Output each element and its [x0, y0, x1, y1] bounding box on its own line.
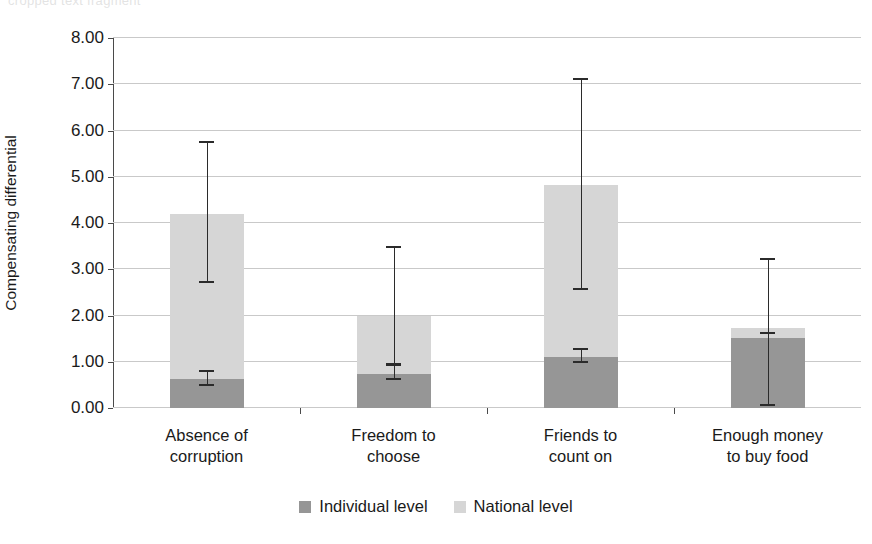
y-tick-mark — [108, 223, 113, 224]
category-label-line: count on — [487, 446, 674, 467]
chart-container: cropped text fragment Compensating diffe… — [0, 0, 872, 544]
y-axis-line — [113, 38, 114, 408]
category-label-line: to buy food — [674, 446, 861, 467]
error-bar-individual-cap-upper — [573, 348, 588, 350]
category-label-line: Friends to — [487, 425, 674, 446]
error-bar-individual-cap-upper — [760, 332, 775, 334]
y-tick-label: 2.00 — [71, 306, 104, 326]
y-tick-label: 3.00 — [71, 259, 104, 279]
y-tick-mark — [108, 38, 113, 39]
x-tick-mark — [300, 408, 301, 414]
y-axis-title-label: Compensating differential — [0, 38, 22, 408]
y-tick-label: 1.00 — [71, 352, 104, 372]
legend-swatch-icon — [454, 501, 466, 513]
legend-item[interactable]: Individual level — [299, 497, 427, 516]
x-axis-category-label: Friends tocount on — [487, 425, 674, 467]
x-axis-category-label: Freedom tochoose — [300, 425, 487, 467]
legend-label: Individual level — [319, 497, 427, 516]
error-bar-total-whisker — [394, 248, 395, 366]
error-bar-individual-cap-lower — [199, 384, 214, 386]
error-bar-individual-cap-upper — [199, 370, 214, 372]
y-tick-mark — [108, 269, 113, 270]
error-bar-total-cap-lower — [573, 288, 588, 290]
category-label-line: Enough money — [674, 425, 861, 446]
y-tick-label: 8.00 — [71, 28, 104, 48]
gridline — [113, 37, 861, 38]
category-label-line: choose — [300, 446, 487, 467]
error-bar-individual-whisker — [768, 334, 769, 406]
cropped-top-text: cropped text fragment — [0, 0, 872, 12]
y-tick-mark — [108, 362, 113, 363]
y-tick-mark — [108, 177, 113, 178]
y-tick-label: 5.00 — [71, 167, 104, 187]
error-bar-individual-cap-upper — [386, 363, 401, 365]
category-label-line: Freedom to — [300, 425, 487, 446]
y-axis-title: Compensating differential — [0, 38, 22, 408]
gridline — [113, 83, 861, 84]
y-tick-mark — [108, 84, 113, 85]
x-axis-category-label: Enough moneyto buy food — [674, 425, 861, 467]
error-bar-total-whisker — [581, 80, 582, 290]
error-bar-total-cap-upper — [760, 258, 775, 260]
bar-segment-individual-level[interactable] — [544, 357, 618, 408]
error-bar-total-cap-upper — [573, 78, 588, 80]
y-tick-label: 4.00 — [71, 213, 104, 233]
gridline — [113, 176, 861, 177]
y-tick-mark — [108, 408, 113, 409]
y-tick-label: 0.00 — [71, 398, 104, 418]
error-bar-individual-cap-lower — [760, 404, 775, 406]
plot-area: 0.001.002.003.004.005.006.007.008.00 — [113, 38, 861, 408]
x-tick-mark — [487, 408, 488, 414]
category-label-line: corruption — [113, 446, 300, 467]
chart-legend: Individual levelNational level — [0, 497, 872, 516]
category-label-line: Absence of — [113, 425, 300, 446]
legend-label: National level — [474, 497, 573, 516]
x-tick-mark — [674, 408, 675, 414]
error-bar-total-cap-lower — [199, 281, 214, 283]
gridline — [113, 130, 861, 131]
error-bar-individual-cap-lower — [573, 361, 588, 363]
legend-swatch-icon — [299, 501, 311, 513]
legend-item[interactable]: National level — [454, 497, 573, 516]
error-bar-total-cap-upper — [386, 246, 401, 248]
x-axis-category-label: Absence ofcorruption — [113, 425, 300, 467]
y-tick-mark — [108, 316, 113, 317]
y-tick-label: 7.00 — [71, 74, 104, 94]
error-bar-total-cap-upper — [199, 141, 214, 143]
y-tick-mark — [108, 131, 113, 132]
y-tick-label: 6.00 — [71, 121, 104, 141]
error-bar-total-whisker — [207, 143, 208, 283]
error-bar-individual-cap-lower — [386, 378, 401, 380]
